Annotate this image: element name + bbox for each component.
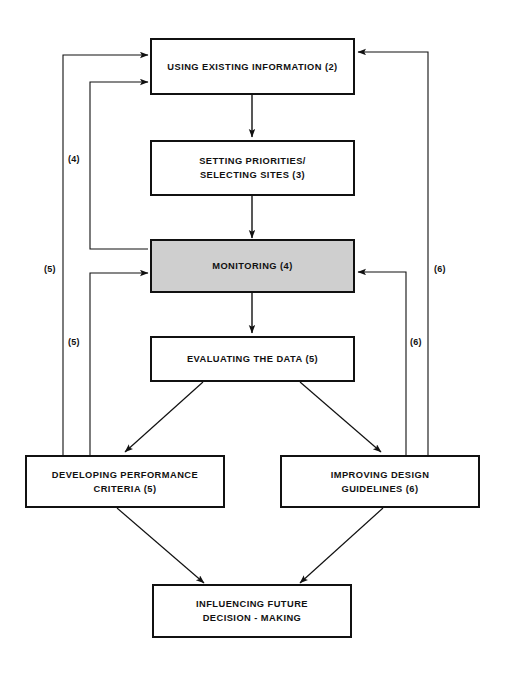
edge-evaluating-split [125,382,381,452]
node-monitoring[interactable]: MONITORING (4) [150,239,355,293]
node-label: INFLUENCING FUTURE DECISION - MAKING [196,597,308,625]
edge-feedback-guidelines-to-monitoring [358,272,406,455]
edge-label-5-left: (5) [68,337,80,347]
node-improving-design-guidelines[interactable]: IMPROVING DESIGN GUIDELINES (6) [280,455,480,508]
edge-label-6-far-right: (6) [434,264,446,274]
node-label: MONITORING (4) [212,259,293,273]
node-developing-performance-criteria[interactable]: DEVELOPING PERFORMANCE CRITERIA (5) [25,455,225,508]
edge-feedback-criteria-to-information [63,55,148,455]
edge-label-5-far-left: (5) [44,264,56,274]
edge-feedback-monitoring-to-information [90,82,148,249]
edge-feedback-guidelines-to-information [358,52,428,455]
node-setting-priorities[interactable]: SETTING PRIORITIES/ SELECTING SITES (3) [150,140,355,196]
node-influencing-future-decision-making[interactable]: INFLUENCING FUTURE DECISION - MAKING [152,584,352,638]
node-label: EVALUATING THE DATA (5) [187,352,318,366]
node-using-existing-information[interactable]: USING EXISTING INFORMATION (2) [150,38,355,95]
flowchart-canvas: USING EXISTING INFORMATION (2) SETTING P… [0,0,507,673]
node-label: USING EXISTING INFORMATION (2) [167,60,337,74]
node-label: SETTING PRIORITIES/ SELECTING SITES (3) [199,154,306,182]
node-label: IMPROVING DESIGN GUIDELINES (6) [331,468,430,496]
edge-label-4-left: (4) [68,154,80,164]
node-label: DEVELOPING PERFORMANCE CRITERIA (5) [52,468,198,496]
edge-label-6-right: (6) [410,337,422,347]
node-evaluating-the-data[interactable]: EVALUATING THE DATA (5) [150,336,355,382]
edge-converge-bottom [117,508,383,583]
edge-feedback-criteria-to-monitoring [90,273,148,455]
